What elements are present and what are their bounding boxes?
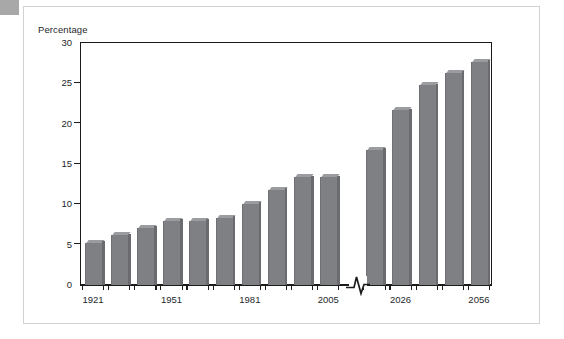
bar [137,228,154,285]
bar-side-face [337,176,340,285]
x-axis-tick-label: 1921 [82,294,103,305]
bar [268,190,285,284]
y-axis-tick [74,163,80,164]
bar-side-face [488,60,491,284]
axis-break-zigzag-icon [343,268,373,296]
bar-side-face [154,226,157,284]
bar-side-face [436,84,439,285]
bar [216,218,233,285]
x-axis-minor-tick [239,286,240,290]
x-axis-minor-tick [442,286,443,290]
y-axis-tick [74,243,80,244]
bar [471,62,488,285]
x-axis-minor-tick [160,286,161,290]
bar [392,110,409,284]
y-axis-tick [74,82,80,83]
bar-side-face [311,176,314,285]
x-axis-minor-tick [134,286,135,290]
x-axis-minor-tick [338,286,339,290]
bar-side-face [285,188,288,284]
x-axis-minor-tick [265,286,266,290]
x-axis-minor-tick [312,286,313,290]
bar-side-face [233,216,236,285]
bar [111,235,128,284]
x-axis-minor-tick [317,286,318,290]
x-axis-tick-label: 2056 [468,294,489,305]
bar-chart: Percentage 051015202530 1921195119812005… [0,0,564,339]
bar-side-face [206,219,209,284]
bar [242,204,259,285]
y-axis-tick [74,122,80,123]
bar [85,243,102,285]
x-axis-minor-tick [416,286,417,290]
x-axis-minor-tick [129,286,130,290]
y-axis-tick [74,203,80,204]
y-axis-tick-label: 5 [32,238,72,249]
bar [366,150,383,285]
x-axis-minor-tick [411,286,412,290]
x-axis-minor-tick [82,286,83,290]
x-axis-minor-tick [213,286,214,290]
bar [320,177,337,284]
bar [163,221,180,285]
x-axis-minor-tick [389,286,390,290]
x-axis-minor-tick [291,286,292,290]
y-axis-tick-label: 15 [32,158,72,169]
y-axis-tick-label: 10 [32,198,72,209]
x-axis-minor-tick [108,286,109,290]
bar-side-face [259,202,262,284]
y-axis-tick-label: 0 [32,279,72,290]
x-axis-minor-tick [208,286,209,290]
x-axis-minor-tick [468,286,469,290]
x-axis-minor-tick [437,286,438,290]
x-axis-minor-tick [182,286,183,290]
bar-side-face [180,219,183,284]
x-axis-minor-tick [286,286,287,290]
bar [419,85,436,284]
y-axis-tick-label: 20 [32,117,72,128]
bar [189,221,206,285]
x-axis-tick-label: 1951 [161,294,182,305]
x-axis-minor-tick [489,286,490,290]
y-axis-labels: 051015202530 [28,0,72,339]
bar-side-face [409,109,412,285]
bar-side-face [383,148,386,284]
bar-side-face [462,71,465,284]
x-axis-minor-tick [463,286,464,290]
x-axis-minor-tick [186,286,187,290]
y-axis-tick-label: 25 [32,77,72,88]
x-axis-minor-tick [385,286,386,290]
x-axis-tick-label: 2026 [390,294,411,305]
x-axis-minor-tick [155,286,156,290]
bar-side-face [102,241,105,285]
bars-layer [80,42,492,285]
y-axis-tick-label: 30 [32,37,72,48]
x-axis-minor-tick [234,286,235,290]
bar [294,177,311,284]
x-axis-minor-tick [260,286,261,290]
x-axis-tick-label: 1981 [239,294,260,305]
x-axis-tick-label: 2005 [318,294,339,305]
x-axis-minor-tick [103,286,104,290]
bar [445,73,462,285]
bar-side-face [128,234,131,285]
